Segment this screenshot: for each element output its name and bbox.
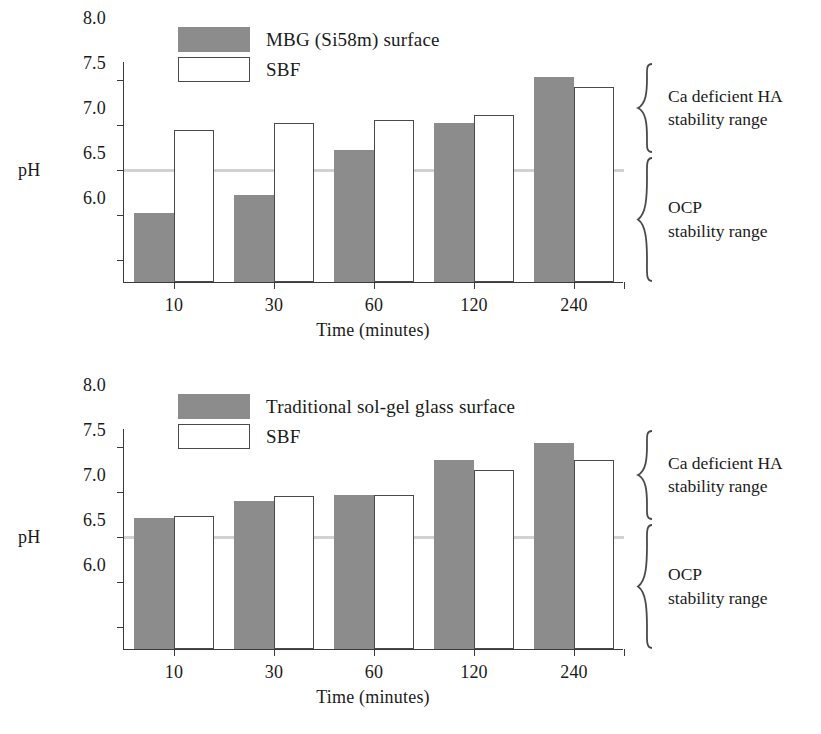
bar-sample [534, 77, 574, 282]
y-axis-tick [117, 582, 124, 583]
y-axis-tick-label: 8.0 [83, 8, 106, 29]
curly-brace-icon [636, 429, 654, 521]
x-axis-end-tick [624, 649, 625, 656]
y-axis-labels-bottom: 6.06.57.07.58.0 [48, 367, 106, 588]
x-axis-tick [174, 282, 175, 289]
x-axis-tick-label: 30 [265, 662, 283, 683]
x-axis-tick-label: 10 [165, 295, 183, 316]
bar-sbf [374, 120, 414, 282]
curly-brace-icon [636, 156, 654, 283]
legend-item: Traditional sol-gel glass surface [178, 393, 515, 420]
y-axis-title-bottom: pH [18, 527, 40, 548]
x-axis-tick-label: 240 [560, 295, 588, 316]
y-axis-tick [117, 260, 124, 261]
chart-panel-bottom: 6.06.57.07.58.0 pH Traditional sol-gel g… [0, 367, 821, 734]
x-axis-title-top: Time (minutes) [123, 320, 623, 341]
y-axis-tick [117, 80, 124, 81]
x-axis-tick [174, 649, 175, 656]
bar-sample [134, 213, 174, 282]
bar-sbf [374, 495, 414, 649]
bar-group [324, 62, 424, 282]
legend-item: MBG (Si58m) surface [178, 26, 440, 53]
plot-area-top: 103060120240 [123, 62, 623, 283]
bar-sample [434, 123, 474, 282]
annotation-line-1: Ca deficient HA [668, 85, 783, 108]
annotation-ca-deficient-ha-top: Ca deficient HA stability range [636, 62, 783, 154]
x-axis-tick [374, 649, 375, 656]
curly-brace-icon [636, 62, 654, 154]
x-axis-tick [474, 282, 475, 289]
bar-sbf [474, 470, 514, 650]
annotation-line-2: stability range [668, 587, 768, 610]
bar-sbf [574, 460, 614, 649]
bar-group [124, 429, 224, 649]
annotation-line-2: stability range [668, 475, 783, 498]
y-axis-tick-label: 6.5 [83, 510, 106, 531]
x-axis-end-tick [624, 282, 625, 289]
bar-group [224, 429, 324, 649]
y-axis-tick-label: 6.0 [83, 188, 106, 209]
legend-label: Traditional sol-gel glass surface [266, 396, 515, 418]
annotation-text: OCP stability range [668, 196, 768, 242]
y-axis-tick-label: 8.0 [83, 375, 106, 396]
bar-sbf [174, 130, 214, 282]
legend-swatch-gray-icon [178, 394, 250, 419]
bar-sbf [574, 87, 614, 282]
bar-sample [234, 501, 274, 649]
x-axis-tick-label: 60 [365, 662, 383, 683]
x-axis-tick [474, 649, 475, 656]
x-axis-tick [574, 282, 575, 289]
annotation-ocp-bottom: OCP stability range [636, 523, 768, 650]
legend-label: MBG (Si58m) surface [266, 29, 440, 51]
bar-sample [334, 150, 374, 282]
x-axis-tick [274, 282, 275, 289]
bar-group [424, 429, 524, 649]
x-axis-tick [374, 282, 375, 289]
annotation-line-2: stability range [668, 108, 783, 131]
y-axis-tick-label: 7.0 [83, 98, 106, 119]
x-axis-tick [574, 649, 575, 656]
chart-panel-top: 6.06.57.07.58.0 pH MBG (Si58m) surface S… [0, 0, 821, 367]
y-axis-tick [117, 492, 124, 493]
x-axis-tick-label: 60 [365, 295, 383, 316]
bar-sbf [274, 123, 314, 282]
y-axis-tick-label: 6.5 [83, 143, 106, 164]
y-axis-tick-label: 6.0 [83, 555, 106, 576]
y-axis-tick [117, 215, 124, 216]
plot-area-bottom: 103060120240 [123, 429, 623, 650]
annotation-ocp-top: OCP stability range [636, 156, 768, 283]
bar-sbf [474, 115, 514, 282]
bar-group [524, 429, 624, 649]
y-axis-tick-label: 7.5 [83, 420, 106, 441]
y-axis-tick-label: 7.5 [83, 53, 106, 74]
y-axis-title-top: pH [18, 160, 40, 181]
bar-sample [134, 518, 174, 649]
annotation-line-1: OCP [668, 563, 768, 586]
y-axis-tick [117, 447, 124, 448]
bar-group [424, 62, 524, 282]
curly-brace-icon [636, 523, 654, 650]
bar-group [324, 429, 424, 649]
x-axis-tick-label: 240 [560, 662, 588, 683]
x-axis-tick-label: 10 [165, 662, 183, 683]
annotation-line-1: Ca deficient HA [668, 452, 783, 475]
y-axis-tick [117, 627, 124, 628]
x-axis-tick-label: 120 [460, 662, 488, 683]
annotation-line-2: stability range [668, 220, 768, 243]
y-axis-tick [117, 537, 124, 538]
bar-sample [534, 443, 574, 649]
annotation-line-1: OCP [668, 196, 768, 219]
legend-swatch-gray-icon [178, 27, 250, 52]
bar-sbf [274, 496, 314, 649]
bar-sample [234, 195, 274, 282]
annotation-text: OCP stability range [668, 563, 768, 609]
annotation-text: Ca deficient HA stability range [668, 452, 783, 498]
bar-group [124, 62, 224, 282]
bar-group [524, 62, 624, 282]
bar-sample [434, 460, 474, 649]
bar-sample [334, 495, 374, 649]
y-axis-labels-top: 6.06.57.07.58.0 [48, 0, 106, 221]
x-axis-tick-label: 30 [265, 295, 283, 316]
x-axis-title-bottom: Time (minutes) [123, 687, 623, 708]
x-axis-tick-label: 120 [460, 295, 488, 316]
